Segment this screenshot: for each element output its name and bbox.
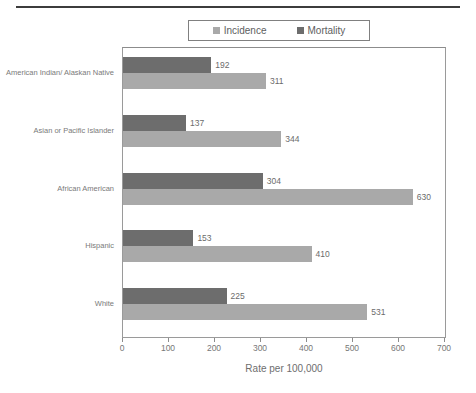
- bar-value-label: 311: [270, 77, 284, 86]
- x-tick-mark: [168, 338, 169, 342]
- x-tick-label: 400: [299, 344, 313, 353]
- bar-value-label: 410: [316, 250, 330, 259]
- bar-value-label: 137: [190, 118, 204, 127]
- bar-value-label: 304: [267, 176, 281, 185]
- x-tick-mark: [122, 338, 123, 342]
- x-tick-label: 500: [345, 344, 359, 353]
- legend-label: Incidence: [224, 26, 267, 36]
- legend-swatch-icon: [213, 27, 220, 34]
- bar-mortality[interactable]: 192: [123, 57, 211, 73]
- bar-mortality[interactable]: 137: [123, 115, 186, 131]
- x-tick-label: 100: [161, 344, 175, 353]
- x-tick-mark: [352, 338, 353, 342]
- bar-incidence[interactable]: 344: [123, 131, 281, 147]
- category-label: White: [95, 300, 114, 308]
- category-axis-labels: American Indian/ Alaskan NativeAsian or …: [0, 47, 118, 338]
- bar-incidence[interactable]: 311: [123, 73, 266, 89]
- bar-value-label: 344: [285, 134, 299, 143]
- bar-value-label: 531: [371, 308, 385, 317]
- x-axis-title: Rate per 100,000: [122, 364, 446, 374]
- category-label: American Indian/ Alaskan Native: [6, 69, 114, 77]
- category-label: African American: [57, 185, 114, 193]
- x-tick-mark: [306, 338, 307, 342]
- plot-area: 192311137344304630153410225531: [123, 48, 445, 337]
- bar-group: 153410: [123, 230, 445, 264]
- bar-incidence[interactable]: 410: [123, 246, 312, 262]
- bar-value-label: 630: [417, 192, 431, 201]
- x-tick-mark: [444, 338, 445, 342]
- bar-group: 137344: [123, 115, 445, 149]
- x-tick-label: 200: [207, 344, 221, 353]
- category-label: Hispanic: [85, 243, 114, 251]
- bar-value-label: 225: [231, 292, 245, 301]
- x-tick-label: 0: [120, 344, 125, 353]
- bar-mortality[interactable]: 153: [123, 230, 193, 246]
- bar-value-label: 192: [215, 61, 229, 70]
- x-tick-label: 700: [437, 344, 451, 353]
- bar-incidence[interactable]: 531: [123, 304, 367, 320]
- bar-mortality[interactable]: 304: [123, 173, 263, 189]
- x-axis-ticks: 0100200300400500600700: [122, 338, 446, 360]
- bar-group: 192311: [123, 57, 445, 91]
- legend-label: Mortality: [308, 26, 346, 36]
- bar-value-label: 153: [197, 234, 211, 243]
- bar-group: 225531: [123, 288, 445, 322]
- plot-frame: 192311137344304630153410225531: [122, 47, 446, 338]
- bar-group: 304630: [123, 173, 445, 207]
- legend-swatch-icon: [297, 27, 304, 34]
- bar-incidence[interactable]: 630: [123, 189, 413, 205]
- top-divider-rule: [16, 6, 460, 8]
- category-label: Asian or Pacific Islander: [34, 127, 114, 135]
- bar-mortality[interactable]: 225: [123, 288, 227, 304]
- x-tick-label: 600: [391, 344, 405, 353]
- x-tick-label: 300: [253, 344, 267, 353]
- x-tick-mark: [214, 338, 215, 342]
- x-tick-mark: [398, 338, 399, 342]
- legend-item-incidence[interactable]: Incidence: [213, 26, 267, 36]
- legend-item-mortality[interactable]: Mortality: [297, 26, 346, 36]
- x-tick-mark: [260, 338, 261, 342]
- chart-legend: IncidenceMortality: [188, 20, 370, 41]
